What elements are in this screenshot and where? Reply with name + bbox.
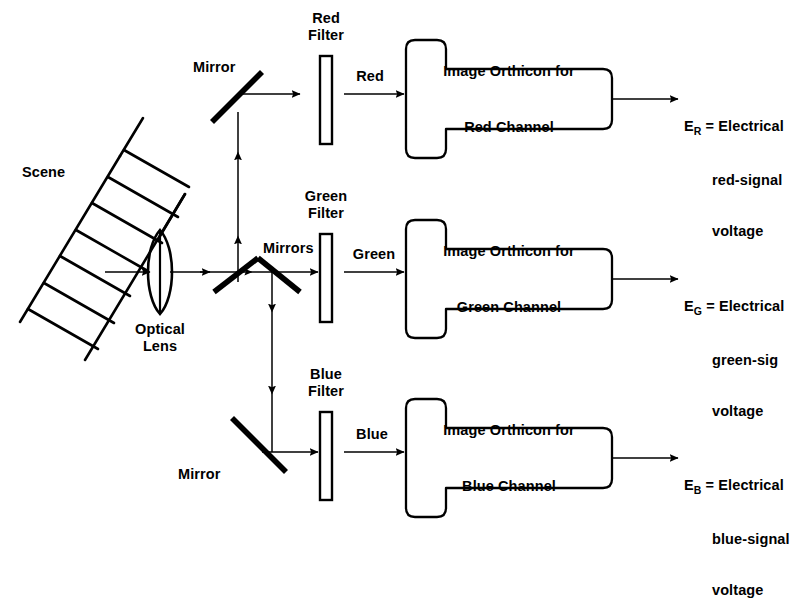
green-beam-label: Green <box>353 246 395 263</box>
green-orthicon-line1: Image Orthicon for <box>443 242 575 261</box>
green-output-symbol: E <box>684 298 694 314</box>
green-filter <box>320 234 332 322</box>
red-beam-label: Red <box>356 68 384 85</box>
blue-output-subscript: B <box>694 484 702 496</box>
blue-filter-label-line2: Filter <box>308 383 344 400</box>
green-orthicon-label: Image Orthicon for Green Channel <box>443 205 575 353</box>
optical-lens-label-line2: Lens <box>143 338 177 355</box>
red-orthicon-line1: Image Orthicon for <box>443 62 575 81</box>
top-mirror <box>212 72 262 122</box>
green-filter-label-line1: Green <box>305 188 347 205</box>
red-output-symbol: E <box>684 118 694 134</box>
center-mirrors <box>214 258 300 292</box>
blue-beam-label: Blue <box>356 426 388 443</box>
blue-orthicon-line1: Image Orthicon for <box>443 421 575 440</box>
blue-output-label: EB = Electrical blue-signal voltage <box>684 443 790 602</box>
optical-lens-label-line1: Optical <box>135 321 185 338</box>
red-filter-label-line2: Filter <box>308 27 344 44</box>
red-orthicon-line2: Red Channel <box>443 118 575 137</box>
blue-output-text1: Electrical <box>718 477 784 493</box>
red-output-line1: ER = Electrical <box>684 118 784 137</box>
green-output-text1: Electrical <box>719 298 785 314</box>
green-output-line2: green-sig <box>684 352 784 369</box>
blue-orthicon-label: Image Orthicon for Blue Channel <box>443 384 575 532</box>
red-output-label: ER = Electrical red-signal voltage <box>684 84 784 274</box>
green-output-line3: voltage <box>684 403 784 420</box>
blue-orthicon-line2: Blue Channel <box>443 477 575 496</box>
red-output-line3: voltage <box>684 223 784 240</box>
red-output-equals: = <box>706 118 715 134</box>
blue-output-line2: blue-signal <box>684 531 790 548</box>
bottom-mirror-label: Mirror <box>178 466 221 483</box>
scene-label: Scene <box>22 164 65 181</box>
red-filter <box>320 56 332 144</box>
red-output-text1: Electrical <box>718 118 784 134</box>
green-output-subscript: G <box>694 305 702 317</box>
blue-output-line1: EB = Electrical <box>684 477 790 496</box>
blue-filter <box>320 412 332 500</box>
blue-output-equals: = <box>706 477 715 493</box>
center-mirrors-label: Mirrors <box>263 240 314 257</box>
blue-output-symbol: E <box>684 477 694 493</box>
bottom-mirror <box>232 418 286 472</box>
green-output-label: EG = Electrical green-sig voltage <box>684 264 784 454</box>
green-filter-label-line2: Filter <box>308 205 344 222</box>
blue-output-line3: voltage <box>684 582 790 599</box>
red-output-line2: red-signal <box>684 172 784 189</box>
optical-lens <box>148 230 172 314</box>
green-output-equals: = <box>706 298 715 314</box>
red-filter-label-line1: Red <box>312 10 340 27</box>
red-orthicon-label: Image Orthicon for Red Channel <box>443 25 575 173</box>
red-output-subscript: R <box>694 125 702 137</box>
green-output-line1: EG = Electrical <box>684 298 784 317</box>
green-orthicon-line2: Green Channel <box>443 298 575 317</box>
top-mirror-label: Mirror <box>193 59 236 76</box>
blue-filter-label-line1: Blue <box>310 366 342 383</box>
